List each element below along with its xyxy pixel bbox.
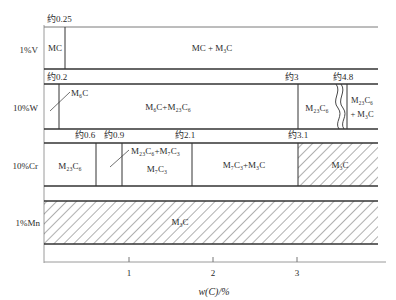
tick-label: 2	[211, 268, 216, 278]
boundary-label: 约0.9	[104, 129, 125, 140]
tick-label: 1	[127, 268, 132, 278]
x-axis: 1 2 3 w(C)/%	[44, 257, 386, 298]
x-axis-label: w(C)/%	[198, 286, 229, 298]
phase-label: M₇C₃	[147, 164, 167, 174]
boundary-label: 约2.1	[175, 129, 195, 140]
phase-label: M₂₃C₆	[58, 161, 81, 171]
phase-label: + M₃C	[350, 109, 373, 119]
tick-label: 3	[295, 268, 300, 278]
row-manganese: 1%Mn M₃C	[16, 201, 379, 244]
phase-label: M₂₃C₆+M₇C₃	[131, 146, 180, 156]
phase-label: M₇C₃+M₃C	[223, 160, 266, 170]
phase-label: M₃C	[171, 217, 188, 227]
phase-label: M₃C	[331, 160, 348, 170]
row-vanadium: 1%V 约0.25 MC MC + M₃C	[20, 13, 379, 69]
row-label: 1%Mn	[16, 218, 41, 228]
row-label: 10%Cr	[13, 161, 39, 171]
row-label: 10%W	[13, 103, 38, 113]
phase-label: MC	[48, 43, 62, 53]
leader-line	[50, 92, 70, 111]
boundary-label: 约0.25	[47, 13, 72, 24]
phase-label: M₆C	[71, 88, 88, 98]
boundary-label: 约3.1	[288, 129, 308, 140]
row-tungsten: 10%W 约0.2 约3 约4.8 M₆C M₆C+M₂₃C₆ M₂₃C₆ M₂…	[13, 71, 378, 129]
boundary-label: 约0.6	[75, 129, 96, 140]
boundary-label: 约4.8	[333, 71, 354, 82]
carbide-phase-diagram: 1%V 约0.25 MC MC + M₃C 10%W 约0.2 约3 约4.8 …	[0, 0, 396, 300]
phase-label: MC + M₃C	[192, 43, 233, 53]
axis-break-icon	[336, 84, 340, 129]
leader-line	[110, 150, 129, 167]
boundary-label: 约3	[285, 71, 299, 82]
row-chromium: 10%Cr 约0.6 约0.9 约2.1 约3.1 M₂₃C₆ M₂₃C₆+M₇…	[13, 129, 379, 186]
phase-label: M₆C+M₂₃C₆	[145, 102, 191, 112]
phase-label: M₂₃C₆	[351, 95, 373, 105]
phase-label: M₂₃C₆	[305, 103, 328, 113]
row-label: 1%V	[20, 45, 39, 55]
hatched-region	[44, 201, 378, 244]
boundary-label: 约0.2	[47, 71, 67, 82]
